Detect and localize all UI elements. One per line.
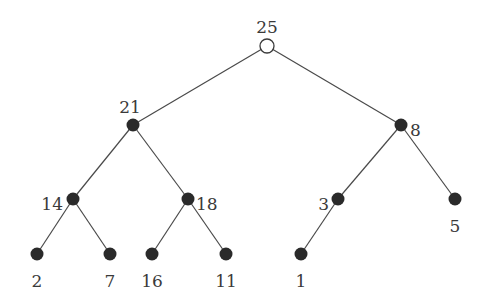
node-label-2: 2 bbox=[32, 271, 43, 291]
node-21 bbox=[127, 119, 140, 132]
node-label-25: 25 bbox=[256, 17, 278, 37]
node-5 bbox=[449, 193, 462, 206]
edge-14-7 bbox=[73, 199, 110, 254]
node-3 bbox=[332, 193, 345, 206]
edge-21-18 bbox=[133, 125, 188, 199]
node-label-21: 21 bbox=[119, 97, 141, 117]
node-label-5: 5 bbox=[450, 216, 461, 236]
node-label-16: 16 bbox=[141, 271, 163, 291]
nodes-group bbox=[31, 39, 462, 261]
node-label-18: 18 bbox=[196, 194, 218, 214]
node-1 bbox=[295, 248, 308, 261]
edge-8-3 bbox=[338, 125, 401, 199]
node-2 bbox=[31, 248, 44, 261]
node-7 bbox=[104, 248, 117, 261]
labels-group: 252181418352716111 bbox=[32, 17, 461, 291]
node-25 bbox=[260, 39, 274, 53]
tree-svg: 252181418352716111 bbox=[0, 0, 487, 299]
node-11 bbox=[220, 248, 233, 261]
node-8 bbox=[395, 119, 408, 132]
edge-25-21 bbox=[133, 46, 267, 125]
edges-group bbox=[37, 46, 455, 254]
edge-18-16 bbox=[152, 199, 188, 254]
tree-diagram: 252181418352716111 bbox=[0, 0, 487, 299]
node-label-14: 14 bbox=[41, 194, 63, 214]
node-label-1: 1 bbox=[296, 271, 307, 291]
edge-25-8 bbox=[267, 46, 401, 125]
node-16 bbox=[146, 248, 159, 261]
node-label-3: 3 bbox=[318, 194, 329, 214]
node-14 bbox=[67, 193, 80, 206]
node-18 bbox=[182, 193, 195, 206]
node-label-11: 11 bbox=[215, 271, 237, 291]
node-label-8: 8 bbox=[410, 120, 421, 140]
edge-21-14 bbox=[73, 125, 133, 199]
node-label-7: 7 bbox=[105, 271, 116, 291]
